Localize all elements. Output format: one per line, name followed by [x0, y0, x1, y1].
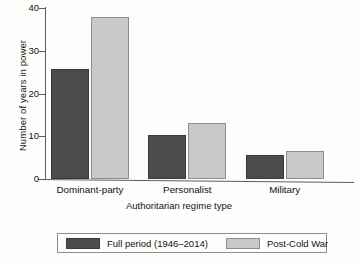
y-axis-tick-label: 20: [5, 88, 39, 99]
bar-2-1: [286, 151, 324, 179]
legend-item-full-period: Full period (1946–2014): [66, 238, 226, 249]
x-axis-title: Authoritarian regime type: [0, 200, 358, 211]
bar-1-0: [148, 135, 186, 179]
legend-label-full-period: Full period (1946–2014): [107, 238, 208, 249]
legend-item-post-cold-war: Post-Cold War: [226, 238, 346, 249]
bar-2-0: [246, 155, 284, 179]
y-axis-tick-mark: [39, 179, 45, 180]
category-label-2: Military: [269, 184, 300, 195]
plot-area: [45, 8, 337, 179]
bar-chart-figure: Number of years in power 010203040 Domin…: [0, 0, 358, 266]
y-axis-tick-label: 30: [5, 45, 39, 56]
y-axis-tick-label: 0: [5, 173, 39, 184]
y-axis-tick-label: 10: [5, 130, 39, 141]
legend-label-post-cold-war: Post-Cold War: [267, 238, 328, 249]
bar-0-1: [91, 17, 129, 179]
y-axis-tick-label: 40: [5, 2, 39, 13]
legend-swatch-full-period: [66, 238, 100, 249]
legend-swatch-post-cold-war: [226, 238, 260, 249]
chart-legend: Full period (1946–2014) Post-Cold War: [57, 233, 327, 253]
category-label-0: Dominant-party: [57, 184, 124, 195]
bar-1-1: [188, 123, 226, 179]
category-label-1: Personalist: [163, 184, 211, 195]
bar-0-0: [51, 69, 89, 179]
x-axis-line: [38, 179, 354, 183]
